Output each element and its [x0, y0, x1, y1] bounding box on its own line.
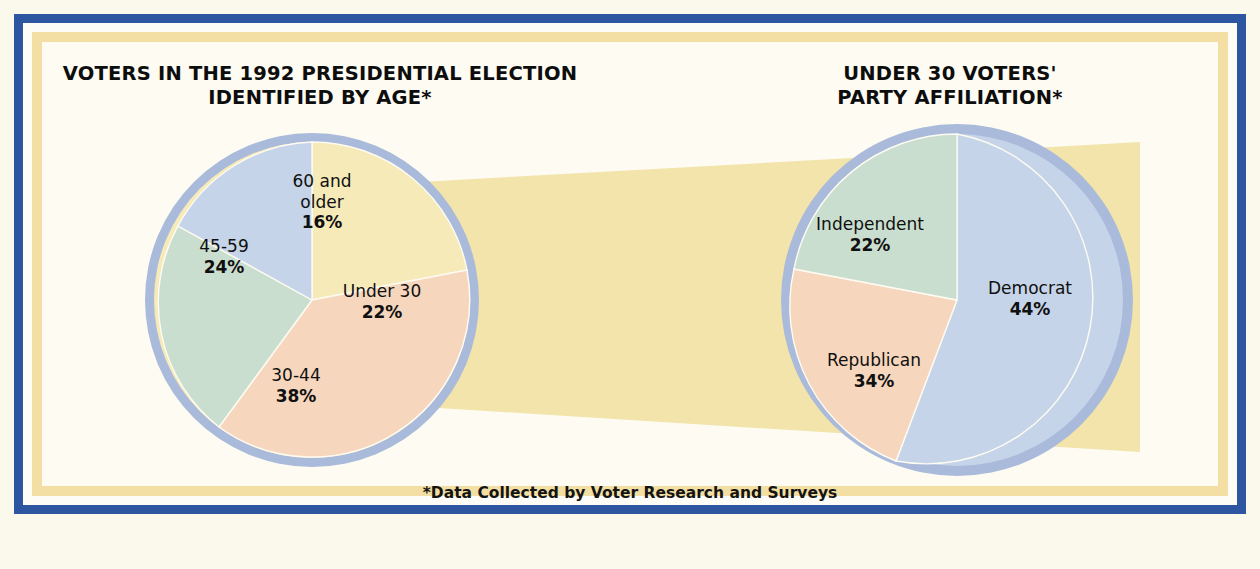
label-republican-name: Republican	[810, 350, 938, 371]
label-45-59-name: 45-59	[178, 236, 270, 257]
label-democrat-value: 44%	[975, 299, 1085, 320]
label-30-44-name: 30-44	[250, 365, 342, 386]
right-chart-title: UNDER 30 VOTERS' PARTY AFFILIATION*	[720, 62, 1180, 110]
label-30-44: 30-44 38%	[250, 365, 342, 406]
data-source-footnote: *Data Collected by Voter Research and Su…	[330, 484, 930, 502]
label-democrat: Democrat 44%	[975, 278, 1085, 319]
label-30-44-value: 38%	[250, 386, 342, 407]
label-45-59-value: 24%	[178, 257, 270, 278]
label-60-and-older-value: 16%	[270, 212, 374, 233]
label-under-30-name: Under 30	[330, 281, 434, 302]
label-independent-value: 22%	[800, 235, 940, 256]
left-chart-title: VOTERS IN THE 1992 PRESIDENTIAL ELECTION…	[40, 62, 600, 110]
label-independent-name: Independent	[800, 214, 940, 235]
label-democrat-name: Democrat	[975, 278, 1085, 299]
label-60-and-older: 60 and older 16%	[270, 171, 374, 233]
label-independent: Independent 22%	[800, 214, 940, 255]
label-republican: Republican 34%	[810, 350, 938, 391]
label-republican-value: 34%	[810, 371, 938, 392]
label-under-30: Under 30 22%	[330, 281, 434, 322]
label-45-59: 45-59 24%	[178, 236, 270, 277]
label-under-30-value: 22%	[330, 302, 434, 323]
label-60-and-older-name: 60 and older	[270, 171, 374, 212]
